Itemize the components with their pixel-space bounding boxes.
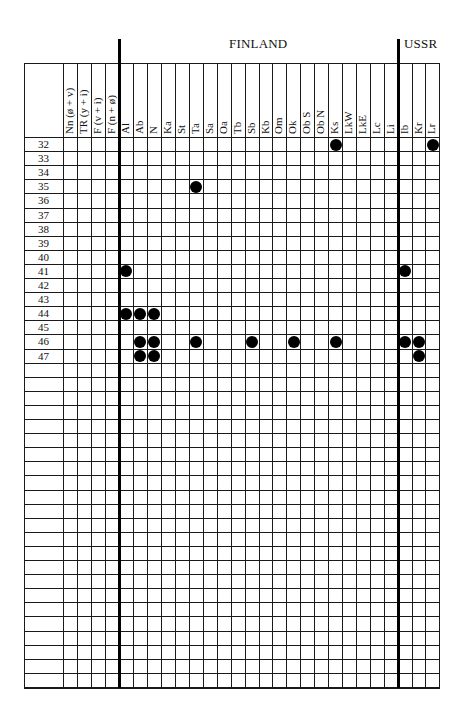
occurrence-dot <box>330 139 342 151</box>
column-header: Kr <box>412 62 426 135</box>
row-label: 39 <box>24 236 63 250</box>
row-label: 38 <box>24 222 63 236</box>
grid-line-v <box>161 63 162 688</box>
grid-line-v <box>425 63 426 688</box>
occurrence-dot <box>190 336 202 348</box>
occurrence-dot <box>330 336 342 348</box>
grid-line-h <box>24 673 440 674</box>
grid-line-v <box>370 63 371 688</box>
column-header-label: Tb <box>232 122 243 134</box>
occurrence-dot <box>399 336 411 348</box>
grid-line-h <box>24 405 440 406</box>
column-header-label: F (v + i) <box>92 98 103 134</box>
grid-line-v <box>286 63 287 688</box>
grid-line-h <box>24 377 440 378</box>
grid-line-h <box>24 250 440 251</box>
grid-line-v <box>300 63 301 688</box>
column-header: Ab <box>133 62 147 135</box>
column-header-label: Ib <box>399 125 410 134</box>
occurrence-dot <box>148 308 160 320</box>
grid-line-v <box>231 63 232 688</box>
grid-line-v <box>412 63 413 688</box>
grid-line-h <box>24 151 440 152</box>
column-header-label: Sa <box>204 123 215 134</box>
column-header-label: Ob S <box>301 112 312 134</box>
column-header: Tb <box>231 62 245 135</box>
occurrence-dot <box>148 350 160 362</box>
row-label: 33 <box>24 151 63 165</box>
column-header-label: TR (y + i) <box>78 90 89 134</box>
column-header-label: Li <box>385 124 396 134</box>
grid-line-v <box>147 63 148 688</box>
occurrence-dot <box>134 336 146 348</box>
column-header: Nn (ø + v) <box>63 62 77 135</box>
row-label: 40 <box>24 250 63 264</box>
column-header-label: St <box>176 125 187 134</box>
column-header: Ok <box>286 62 300 135</box>
grid-line-v <box>63 63 64 688</box>
occurrence-dot <box>413 350 425 362</box>
column-header: TR (y + i) <box>77 62 91 135</box>
column-header: F (n + ø) <box>105 62 119 135</box>
grid-line-h <box>24 532 440 533</box>
grid-line-v <box>91 63 92 688</box>
row-label: 35 <box>24 179 63 193</box>
grid-line-v <box>272 63 273 688</box>
column-header-label: Kb <box>260 121 271 134</box>
grid-line-h <box>24 391 440 392</box>
column-header-label: LkE <box>357 115 368 134</box>
grid-line-h <box>24 208 440 209</box>
column-header-label: Sb <box>246 122 257 134</box>
occurrence-dot <box>427 139 439 151</box>
column-header-label: Om <box>273 118 284 135</box>
grid-line-v <box>203 63 204 688</box>
occurrence-dot <box>120 308 132 320</box>
column-header-label: Ks <box>329 122 340 134</box>
grid-line-h <box>24 419 440 420</box>
column-header: Oa <box>217 62 231 135</box>
row-label: 34 <box>24 165 63 179</box>
grid-line-h <box>24 222 440 223</box>
column-header: Ob N <box>314 62 328 135</box>
row-label: 47 <box>24 349 63 363</box>
column-header-label: F (n + ø) <box>106 95 117 134</box>
column-header: Kb <box>259 62 273 135</box>
occurrence-dot <box>134 308 146 320</box>
grid-line-h <box>24 645 440 646</box>
column-header: Om <box>272 62 286 135</box>
occurrence-dot <box>120 265 132 277</box>
column-header: Sa <box>203 62 217 135</box>
row-label: 42 <box>24 278 63 292</box>
row-label: 37 <box>24 208 63 222</box>
grid-line-v <box>105 63 106 688</box>
region-title-finland: FINLAND <box>229 36 287 52</box>
grid-line-h <box>24 137 440 138</box>
occurrence-dot <box>413 336 425 348</box>
grid-line-h <box>24 588 440 589</box>
row-label: 44 <box>24 306 63 320</box>
column-header-label: Kr <box>413 122 424 134</box>
column-header: Lc <box>370 62 384 135</box>
occurrence-dot <box>148 336 160 348</box>
column-header: N <box>147 62 161 135</box>
column-header-label: Ok <box>287 121 298 134</box>
grid-line-h <box>24 616 440 617</box>
column-header-label: N <box>148 126 159 134</box>
row-label: 36 <box>24 193 63 207</box>
column-header: Ta <box>189 62 203 135</box>
grid-line-h <box>24 546 440 547</box>
grid-line-h <box>24 687 440 689</box>
grid-line-h <box>24 659 440 660</box>
grid-line-v <box>342 63 343 688</box>
grid-line-h <box>24 236 440 237</box>
column-header: LkW <box>342 62 356 135</box>
column-header: Lr <box>425 62 439 135</box>
grid-line-h <box>24 447 440 448</box>
grid-line-h <box>24 504 440 505</box>
column-header-label: Ab <box>134 121 145 134</box>
occurrence-dot <box>399 265 411 277</box>
row-label: 43 <box>24 292 63 306</box>
grid-line-h <box>24 179 440 180</box>
grid-line-h <box>24 320 440 321</box>
grid-line-h <box>24 461 440 462</box>
